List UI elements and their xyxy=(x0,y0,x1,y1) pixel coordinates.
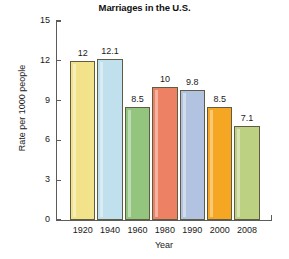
bar-1920 xyxy=(70,61,95,220)
bar-highlight xyxy=(237,129,240,217)
bar-value-label: 9.8 xyxy=(174,78,211,87)
marriages-bar-chart: Marriages in the U.S. Rate per 1000 peop… xyxy=(0,0,289,259)
bar-value-label: 8.5 xyxy=(201,95,238,104)
y-axis-line xyxy=(56,21,57,221)
y-tick-3 xyxy=(56,180,61,181)
bar-value-label: 8.5 xyxy=(119,95,156,104)
bar-highlight xyxy=(155,90,158,217)
y-axis-label: Rate per 1000 people xyxy=(17,38,27,178)
y-tick-label: 15 xyxy=(28,16,50,25)
bar-highlight xyxy=(73,64,76,217)
bar-1960 xyxy=(125,107,150,220)
bar-highlight xyxy=(183,93,186,217)
y-tick-label: 3 xyxy=(28,175,50,184)
bar-2000 xyxy=(207,107,232,220)
bar-1980 xyxy=(152,87,177,220)
x-axis-end-cap xyxy=(271,215,272,221)
bar-1990 xyxy=(180,90,205,220)
y-tick-label: 6 xyxy=(28,135,50,144)
x-axis-label: Year xyxy=(56,240,272,250)
y-tick-6 xyxy=(56,140,61,141)
bar-highlight xyxy=(100,62,103,217)
x-tick-label-2008: 2008 xyxy=(230,225,263,235)
bar-value-label: 7.1 xyxy=(228,114,265,123)
bar-highlight xyxy=(128,110,131,217)
chart-title: Marriages in the U.S. xyxy=(0,2,289,13)
bar-1940 xyxy=(97,59,122,220)
y-tick-9 xyxy=(56,100,61,101)
y-tick-label: 12 xyxy=(28,56,50,65)
y-tick-label: 9 xyxy=(28,96,50,105)
y-tick-15 xyxy=(56,20,61,21)
x-axis-line xyxy=(56,220,272,221)
y-tick-label: 0 xyxy=(28,215,50,224)
bar-value-label: 12.1 xyxy=(91,47,128,56)
y-tick-0 xyxy=(56,219,61,220)
bar-highlight xyxy=(210,110,213,217)
bar-2008 xyxy=(234,126,259,220)
y-tick-12 xyxy=(56,60,61,61)
